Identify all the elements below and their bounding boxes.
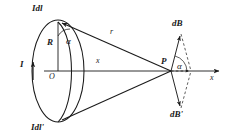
label-axis-x: x [210, 74, 214, 82]
label-current-element-bottom: Idl' [31, 123, 44, 132]
parallelogram-dash-lower [181, 71, 191, 108]
label-angle-at-point: α [177, 62, 182, 71]
label-radius: R [47, 38, 53, 47]
label-axial-distance: x [96, 57, 100, 65]
label-field-point-p: P [161, 57, 167, 66]
figure-canvas: Idl Idl' I R O x r α α P dB dB' x [0, 0, 230, 138]
lower-slant-line [62, 71, 171, 120]
angle-arc-at-loop [58, 29, 70, 36]
dB-prime-vector [171, 71, 180, 106]
label-current-element-top: Idl [32, 4, 43, 13]
label-angle-at-loop: α [66, 37, 71, 46]
label-current: I [20, 60, 24, 69]
label-center-o: O [49, 73, 55, 81]
physics-diagram-svg [0, 0, 230, 138]
label-source-distance: r [110, 28, 113, 36]
label-field-vector-bottom: dB' [170, 110, 183, 119]
label-field-vector-top: dB [172, 19, 183, 28]
r-line [62, 23, 171, 71]
